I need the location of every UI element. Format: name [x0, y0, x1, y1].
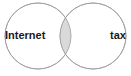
venn-label-right: tax	[110, 29, 126, 41]
venn-diagram: Internet tax	[0, 0, 131, 76]
venn-label-left: Internet	[5, 29, 45, 41]
